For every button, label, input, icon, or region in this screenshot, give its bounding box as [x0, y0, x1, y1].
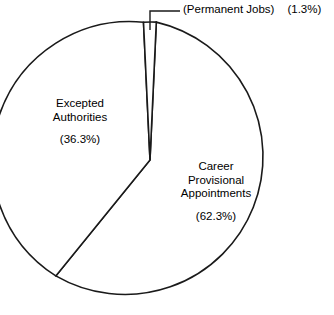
slice-label-permanent-jobs-percent: (1.3%) [287, 3, 321, 15]
slice-label-excepted-authorities-percent: (36.3%) [24, 133, 136, 147]
slice-label-career-line3: Appointments [158, 187, 274, 201]
slice-label-excepted-authorities: Excepted Authorities (36.3%) [24, 97, 136, 147]
slice-label-career-percent: (62.3%) [158, 210, 274, 224]
slice-label-excepted-authorities-line1: Excepted [24, 97, 136, 111]
slice-label-career-line2: Provisional [158, 174, 274, 188]
slice-label-career-line1: Career [158, 160, 274, 174]
slice-label-permanent-jobs: (Permanent Jobs)(1.3%) [183, 3, 321, 17]
slice-label-career-provisional-appointments: Career Provisional Appointments (62.3%) [158, 160, 274, 223]
pie-chart-svg [0, 0, 334, 315]
pie-chart: (Permanent Jobs)(1.3%) Excepted Authorit… [0, 0, 334, 315]
slice-label-excepted-authorities-line2: Authorities [24, 111, 136, 125]
slice-label-permanent-jobs-name: (Permanent Jobs) [183, 3, 274, 15]
